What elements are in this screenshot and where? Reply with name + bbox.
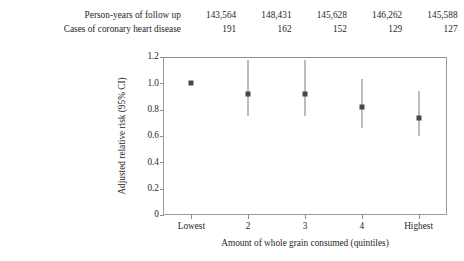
data-point-marker <box>416 115 421 120</box>
y-axis-tick-label: 0.2 <box>147 184 159 193</box>
x-axis-tick-label: Highest <box>404 221 433 232</box>
x-axis-title: Amount of whole grain consumed (quintile… <box>163 238 447 248</box>
y-axis-tick-mark <box>160 215 164 216</box>
data-point-marker <box>359 105 364 110</box>
annotation-cell: 191 <box>181 23 236 37</box>
annotation-cell: 129 <box>347 23 402 37</box>
x-axis-tick-mark <box>362 215 363 219</box>
annotation-cell: 143,564 <box>181 9 236 23</box>
error-bar <box>305 60 306 117</box>
table-row: Cases of coronary heart disease 191 162 … <box>0 23 464 37</box>
data-point-marker <box>189 81 194 86</box>
annotation-table: Person-years of follow up 143,564 148,43… <box>0 9 464 36</box>
figure-container: Person-years of follow up 143,564 148,43… <box>0 0 464 261</box>
spacer <box>458 23 464 37</box>
y-axis-tick-label: 0.6 <box>147 131 159 140</box>
annotation-cell: 145,628 <box>292 9 347 23</box>
data-point-marker <box>303 91 308 96</box>
x-axis-tick-mark <box>248 215 249 219</box>
annotation-cell: 162 <box>236 23 291 37</box>
y-axis-tick-label: 0 <box>154 210 159 219</box>
y-axis-title: Adjusted relative risk (95% CI) <box>112 57 132 215</box>
x-axis-tick-mark <box>419 215 420 219</box>
annotation-cell: 127 <box>402 23 457 37</box>
y-axis-tick-label: 1.2 <box>147 52 159 61</box>
y-axis-title-text: Adjusted relative risk (95% CI) <box>117 77 127 194</box>
annotation-cell: 145,588 <box>402 9 457 23</box>
y-axis-tick-labels: 00.20.40.60.81.01.2 <box>133 0 159 261</box>
annotation-cell: 148,431 <box>236 9 291 23</box>
plot-area <box>163 57 447 215</box>
x-axis-tick-mark <box>305 215 306 219</box>
x-axis-tick-label: Lowest <box>178 221 205 232</box>
data-point-marker <box>246 91 251 96</box>
x-axis-tick-mark <box>191 215 192 219</box>
table-row: Person-years of follow up 143,564 148,43… <box>0 9 464 23</box>
spacer <box>458 9 464 23</box>
x-axis-tick-label: 4 <box>359 221 364 232</box>
x-axis-tick-label: 2 <box>246 221 251 232</box>
y-axis-tick-label: 0.8 <box>147 105 159 114</box>
error-bar <box>248 60 249 117</box>
y-axis-tick-label: 1.0 <box>147 79 159 88</box>
x-axis-tick-label: 3 <box>303 221 308 232</box>
y-axis-tick-label: 0.4 <box>147 158 159 167</box>
annotation-cell: 146,262 <box>347 9 402 23</box>
error-bar <box>418 91 419 136</box>
annotation-cell: 152 <box>292 23 347 37</box>
